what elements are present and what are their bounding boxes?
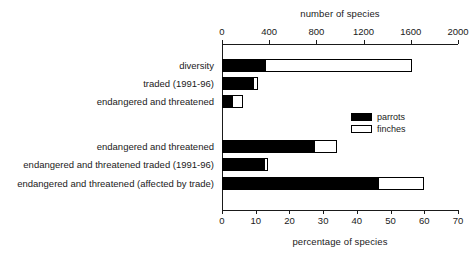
bar-segment-parrots bbox=[222, 140, 314, 153]
bar-row: endangered and threatened traded (1991-9… bbox=[0, 158, 476, 171]
axis-tick bbox=[391, 210, 392, 214]
bar-segment-parrots bbox=[222, 177, 378, 190]
axis-tick bbox=[458, 210, 459, 214]
bar-segment-finches bbox=[232, 95, 243, 108]
axis-tick bbox=[424, 210, 425, 214]
stacked-bar bbox=[222, 158, 268, 171]
axis-tick bbox=[357, 210, 358, 214]
bar-row: endangered and threatened bbox=[0, 95, 476, 108]
bar-segment-parrots bbox=[222, 77, 253, 90]
bar-segment-finches bbox=[253, 77, 258, 90]
stacked-bar bbox=[222, 77, 258, 90]
bar-segment-finches bbox=[378, 177, 424, 190]
axis-tick bbox=[323, 210, 324, 214]
bar-row-label: traded (1991-96) bbox=[143, 77, 214, 90]
bar-row-label: endangered and threatened bbox=[97, 140, 214, 153]
axis-tick bbox=[256, 210, 257, 214]
bar-row-label: diversity bbox=[179, 59, 214, 72]
bar-segment-finches bbox=[264, 158, 268, 171]
legend-label-parrots: parrots bbox=[377, 112, 405, 122]
bar-segment-parrots bbox=[222, 158, 264, 171]
bar-row: traded (1991-96) bbox=[0, 77, 476, 90]
legend-entry: parrots bbox=[351, 112, 421, 122]
stacked-bar bbox=[222, 59, 412, 72]
axis-tick bbox=[222, 210, 223, 214]
bar-segment-parrots bbox=[222, 95, 232, 108]
bar-segment-finches bbox=[314, 140, 337, 153]
axis-tick-label: 70 bbox=[438, 215, 476, 226]
bar-row-label: endangered and threatened bbox=[97, 95, 214, 108]
legend-label-finches: finches bbox=[377, 124, 406, 134]
stacked-bar bbox=[222, 95, 243, 108]
bar-row: endangered and threatened (affected by t… bbox=[0, 177, 476, 190]
bar-row: diversity bbox=[0, 59, 476, 72]
bar-row: endangered and threatened bbox=[0, 140, 476, 153]
bar-row-label: endangered and threatened traded (1991-9… bbox=[23, 158, 214, 171]
bar-segment-finches bbox=[265, 59, 412, 72]
axis-tick bbox=[289, 210, 290, 214]
chart-figure: number of species 0400800120016002000 di… bbox=[0, 0, 476, 259]
stacked-bar bbox=[222, 140, 337, 153]
bottom-axis-title: percentage of species bbox=[0, 236, 476, 247]
legend: parrotsfinches bbox=[351, 112, 421, 136]
legend-entry: finches bbox=[351, 124, 421, 134]
legend-swatch-finches bbox=[351, 125, 372, 133]
stacked-bar bbox=[222, 177, 424, 190]
legend-swatch-parrots bbox=[351, 113, 372, 121]
bar-segment-parrots bbox=[222, 59, 265, 72]
bottom-axis-line bbox=[222, 210, 458, 211]
bar-row-label: endangered and threatened (affected by t… bbox=[17, 177, 214, 190]
